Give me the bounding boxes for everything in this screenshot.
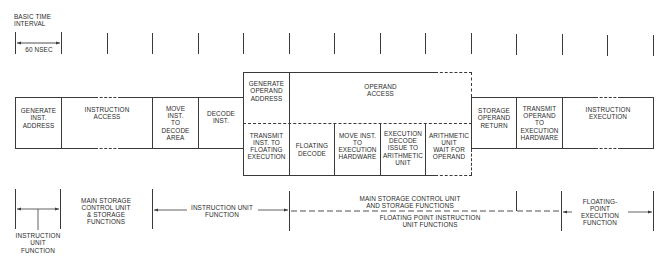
legend-main-storage-control-mid: MAIN STORAGE CONTROL UNIT AND STORAGE FU… [340,194,480,210]
legend-instruction-unit-function-mid: INSTRUCTION UNIT FUNCTION [186,203,258,219]
legend-floating-point-instruction-unit: FLOATING POINT INSTRUCTION UNIT FUNCTION… [365,213,495,229]
legend-floating-point-execution: FLOATING- POINT EXECUTION FUNCTION [571,196,629,228]
legend-instruction-unit-function-left: INSTRUCTION UNIT FUNCTION [10,231,66,255]
legend-main-storage-control-left: MAIN STORAGE CONTROL UNIT & STORAGE FUNC… [70,196,142,226]
